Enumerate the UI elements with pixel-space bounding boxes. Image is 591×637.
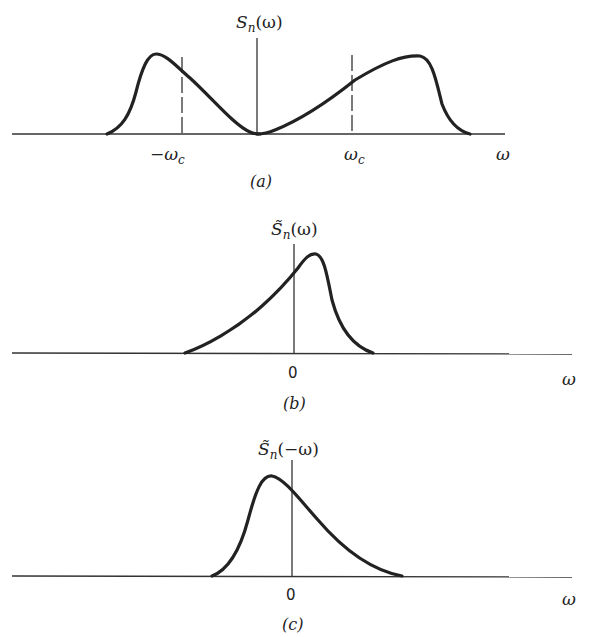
- spectrum-diagram: Sn(ω) −ωc ωc ω (a) S̃n(ω) 0 ω (b) S̃n(−ω…: [0, 0, 591, 637]
- panel-a-right-lobe: [257, 56, 470, 134]
- panel-b-caption: (b): [283, 394, 306, 413]
- panel-a-left-lobe: [107, 54, 260, 134]
- panel-a-tick-pos-wc: ωc: [344, 144, 365, 167]
- panel-c-curve: [212, 476, 402, 576]
- panel-a-tick-neg-wc: −ωc: [150, 144, 185, 167]
- panel-b-tick-zero: 0: [288, 364, 298, 382]
- panel-b-x-label: ω: [562, 369, 576, 389]
- panel-c-tick-zero: 0: [286, 586, 296, 604]
- panel-b: S̃n(ω) 0 ω (b): [12, 219, 576, 413]
- panel-a-caption: (a): [250, 172, 272, 191]
- panel-a-y-label: Sn(ω): [236, 12, 283, 35]
- panel-b-curve: [185, 254, 373, 353]
- panel-c: S̃n(−ω) 0 ω (c): [12, 439, 576, 634]
- panel-a: Sn(ω) −ωc ωc ω (a): [12, 12, 510, 191]
- panel-c-caption: (c): [282, 615, 303, 634]
- panel-b-y-label: S̃n(ω): [271, 219, 318, 242]
- panel-c-y-label: S̃n(−ω): [258, 439, 319, 462]
- panel-a-x-label: ω: [496, 144, 510, 164]
- panel-c-x-label: ω: [562, 589, 576, 609]
- panel-c-x-axis: [12, 576, 572, 577]
- panel-b-x-axis: [12, 353, 572, 354]
